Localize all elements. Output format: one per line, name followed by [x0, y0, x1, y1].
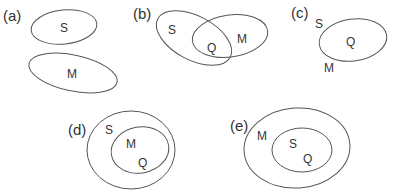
set-q-label: Q	[207, 41, 216, 55]
panel-d: (d) S M Q	[68, 111, 175, 189]
set-m-label: M	[67, 67, 77, 81]
set-m-label: M	[257, 129, 267, 143]
set-m-label: M	[126, 137, 136, 151]
set-s-ellipse	[147, 0, 240, 77]
panel-a: (a) S M	[3, 7, 121, 100]
set-q-label: Q	[303, 152, 312, 166]
set-s-label: S	[315, 17, 323, 31]
panel-c: (c) S Q M	[291, 4, 390, 75]
panel-c-label: (c)	[291, 4, 309, 21]
panel-a-label: (a)	[3, 7, 21, 24]
set-q-label: Q	[346, 35, 355, 49]
set-m-label: M	[237, 32, 247, 46]
set-s-label: S	[60, 21, 68, 35]
set-q-label: Q	[138, 156, 147, 170]
panel-b-label: (b)	[133, 5, 151, 22]
panel-e-label: (e)	[230, 117, 248, 134]
set-s-label: S	[168, 23, 176, 37]
set-m-label: M	[324, 61, 334, 75]
set-s-label: S	[289, 137, 297, 151]
venn-diagrams: (a) S M (b) S Q M (c) S Q M (d) S M Q (e…	[0, 0, 393, 195]
panel-d-label: (d)	[68, 121, 86, 138]
panel-b: (b) S Q M	[133, 0, 271, 77]
panel-e: (e) M S Q	[230, 104, 353, 191]
set-s-label: S	[105, 123, 113, 137]
set-sq-ellipse	[272, 128, 332, 172]
